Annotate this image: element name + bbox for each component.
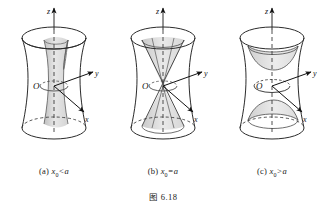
y-axis-label-c: y	[312, 69, 317, 78]
panel-caption-a: (a) x0<a	[0, 166, 108, 178]
panel-caption-c: (c) x0>a	[218, 166, 326, 178]
y-axis-label-a: y	[94, 69, 99, 78]
upper-sheet-c	[248, 46, 298, 70]
x-axis-label-b: x	[193, 115, 198, 124]
panel-condition-rel-b: =a	[168, 166, 178, 176]
panel-tag-a: (a)	[39, 166, 49, 176]
outer-left-silhouette-c	[240, 38, 246, 128]
diagram-hyperboloid-a: z	[0, 0, 108, 170]
x-axis-label-c: x	[302, 115, 307, 124]
z-axis-label-c: z	[264, 7, 269, 16]
panel-condition-rel-a: <a	[59, 166, 69, 176]
diagram-hyperboloid-b: z y	[109, 0, 217, 170]
z-axis-label-a: z	[46, 7, 51, 16]
z-axis-label-b: z	[155, 7, 160, 16]
y-axis-b	[163, 72, 202, 86]
lower-sheet-rim-front-c	[248, 120, 298, 128]
panel-caption-b: (b) x0=a	[109, 166, 217, 178]
origin-label-b: O	[142, 81, 149, 91]
outer-left-silhouette-a	[22, 38, 28, 128]
y-axis-c	[272, 72, 311, 86]
y-axis-label-b: y	[203, 69, 208, 78]
figure-panel-b: z y	[109, 0, 217, 190]
origin-label-a: O	[33, 81, 40, 91]
origin-label-c: O	[256, 81, 263, 91]
panel-tag-b: (b)	[148, 166, 159, 176]
panel-tag-c: (c)	[257, 166, 267, 176]
outer-left-silhouette-b	[131, 38, 137, 128]
figure-panels: z	[0, 0, 326, 190]
diagram-hyperboloid-c: z y x O	[218, 0, 326, 170]
x-axis-label-a: x	[84, 115, 89, 124]
figure-sheet: z	[0, 0, 326, 211]
panel-condition-rel-c: >a	[277, 166, 287, 176]
figure-number: 图 6.18	[0, 190, 326, 202]
figure-panel-c: z y x O	[218, 0, 326, 190]
figure-panel-a: z	[0, 0, 108, 190]
lower-sheet-c	[248, 100, 298, 120]
